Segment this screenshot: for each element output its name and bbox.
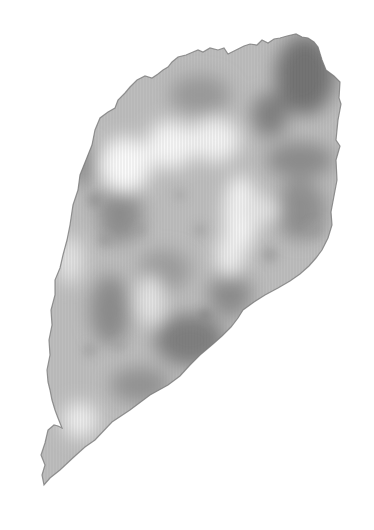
leaf-texture — [0, 0, 374, 530]
leaf-fragment-image — [0, 0, 374, 530]
photo-canvas — [0, 0, 374, 530]
